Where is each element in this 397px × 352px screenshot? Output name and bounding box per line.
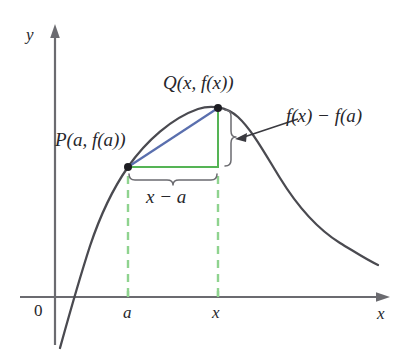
vertical-brace bbox=[225, 110, 236, 166]
secant-line-figure: y x 0 a x P(a, f(a)) Q(x, f(x)) x − a f(… bbox=[0, 0, 397, 352]
point-label-P: P(a, f(a)) bbox=[55, 130, 126, 149]
x-axis-label: x bbox=[377, 305, 385, 322]
y-axis-label: y bbox=[26, 26, 34, 43]
secant-line-PQ bbox=[128, 108, 218, 167]
origin-label: 0 bbox=[34, 302, 43, 319]
horizontal-run-label: x − a bbox=[146, 187, 186, 206]
tick-label-a: a bbox=[123, 304, 132, 321]
vertical-rise-label: f(x) − f(a) bbox=[286, 106, 362, 125]
figure-canvas bbox=[0, 0, 397, 352]
horizontal-brace bbox=[129, 174, 217, 185]
point-Q-marker bbox=[214, 104, 222, 112]
point-label-Q: Q(x, f(x)) bbox=[163, 73, 234, 92]
tick-label-x: x bbox=[212, 304, 220, 321]
point-P-marker bbox=[124, 163, 132, 171]
y-axis-arrowhead bbox=[50, 24, 60, 38]
rise-leader-arrowhead bbox=[235, 133, 247, 142]
x-axis-arrowhead bbox=[376, 292, 390, 302]
